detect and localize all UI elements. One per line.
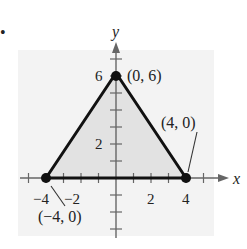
bullet-marker: • [0,24,6,41]
vertex-label-0-6: (0, 6) [127,67,162,85]
vertex-label-neg4-0: (−4, 0) [38,208,82,226]
x-axis-label: x [232,170,240,187]
vertex-point-4-0 [181,173,191,183]
x-tick-label-neg2: −2 [64,191,80,207]
vertex-label-4-0: (4, 0) [161,114,196,132]
triangle-graph: • y x −4 −2 2 4 2 6 (0, 6) (4, 0) (−4, 0… [0,0,247,249]
y-tick-label-6: 6 [95,68,103,84]
x-tick-label-2: 2 [147,191,155,207]
x-axis-arrow-icon [218,174,229,182]
vertex-point-0-6 [111,71,121,81]
vertex-point-neg4-0 [41,173,51,183]
y-axis-label: y [110,23,120,41]
y-tick-label-2: 2 [95,136,103,152]
x-tick-label-4: 4 [182,191,190,207]
x-tick-label-neg4: −4 [33,191,49,207]
y-axis-arrow-icon [112,42,120,53]
